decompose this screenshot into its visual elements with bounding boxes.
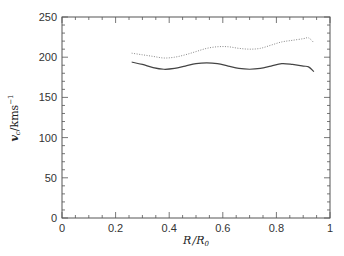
x-tick-label: 0.2 [108,222,123,234]
plot-frame [62,17,330,218]
plot-border [62,17,330,218]
axis-ticks [62,17,330,218]
y-tick-label: 50 [45,172,57,184]
y-tick-labels: 050100150200250 [39,11,57,224]
x-tick-label: 0 [59,222,65,234]
y-tick-label: 250 [39,11,57,23]
x-axis-label: R/R0 [182,234,209,248]
y-tick-label: 0 [51,212,57,224]
rotation-curve-chart: 00.20.40.60.81 050100150200250 R/R0 vc/k… [0,0,344,256]
x-tick-label: 0.6 [215,222,230,234]
solid-line [132,62,314,72]
x-tick-labels: 00.20.40.60.81 [59,222,333,234]
dotted-line [132,38,314,58]
x-tick-label: 0.4 [162,222,177,234]
data-series [132,38,314,72]
y-axis-label: vc/kms−1 [7,94,22,141]
x-tick-label: 1 [327,222,333,234]
y-tick-label: 200 [39,51,57,63]
y-tick-label: 100 [39,132,57,144]
y-tick-label: 150 [39,91,57,103]
x-tick-label: 0.8 [269,222,284,234]
